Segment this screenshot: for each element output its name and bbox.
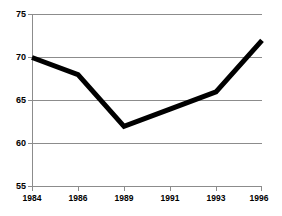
y-tickmarks (28, 15, 32, 187)
line-chart: 75 70 65 60 55 1984 1986 1989 1991 1993 … (0, 0, 282, 216)
x-axis-tick-labels: 1984 1986 1989 1991 1993 1996 (23, 193, 269, 203)
y-axis-tick-label: 55 (16, 181, 26, 191)
chart-container: 75 70 65 60 55 1984 1986 1989 1991 1993 … (0, 0, 282, 216)
y-axis-tick-label: 60 (16, 138, 26, 148)
x-axis-tick-label: 1996 (250, 193, 269, 203)
x-axis-tick-label: 1989 (115, 193, 134, 203)
x-axis-tick-label: 1984 (23, 193, 42, 203)
y-axis-tick-label: 70 (16, 52, 26, 62)
y-axis-tick-labels: 75 70 65 60 55 (16, 9, 26, 191)
data-series-line (32, 40, 262, 126)
x-axis-tick-label: 1993 (207, 193, 226, 203)
y-axis-tick-label: 65 (16, 95, 26, 105)
y-axis-tick-label: 75 (16, 9, 26, 19)
x-axis-tick-label: 1991 (161, 193, 180, 203)
x-axis-tick-label: 1986 (69, 193, 88, 203)
gridlines (32, 15, 262, 187)
